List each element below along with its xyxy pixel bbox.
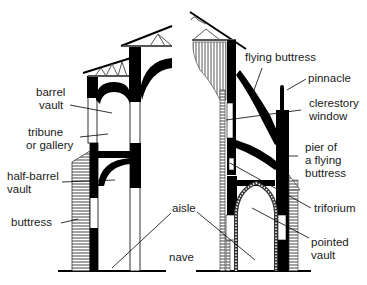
label-triforium: triforium: [314, 202, 356, 215]
label-pier-of-flying-buttress: pier of a flying buttress: [305, 141, 346, 180]
label-tribune: tribune or gallery: [26, 126, 73, 152]
romanesque-section: [58, 26, 172, 271]
romanesque-buttress: [72, 151, 90, 271]
label-barrel-vault: barrel vault: [36, 86, 65, 112]
leader-flying-buttress: [253, 68, 262, 93]
label-pointed-vault: pointed vault: [311, 236, 349, 262]
label-nave: nave: [169, 251, 194, 264]
label-flying-buttress: flying buttress: [245, 51, 316, 64]
label-buttress: buttress: [11, 216, 52, 229]
leader-pinnacle: [287, 79, 306, 90]
label-half-barrel-vault: half-barrel vault: [7, 170, 59, 196]
label-clerestory-window: clerestory window: [309, 97, 359, 123]
label-pinnacle: pinnacle: [308, 72, 351, 85]
leader-aisle-left: [112, 213, 171, 268]
label-aisle: aisle: [172, 202, 196, 215]
